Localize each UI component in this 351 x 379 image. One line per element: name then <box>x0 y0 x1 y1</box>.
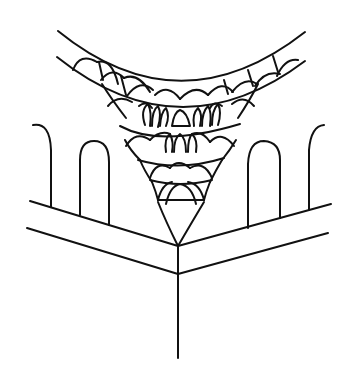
left-arch <box>80 141 109 225</box>
cornice-lines <box>27 201 331 358</box>
left-partial-arch <box>33 125 51 207</box>
muqarnas-pendant <box>158 202 204 246</box>
muqarnas-tier-4 <box>138 158 224 182</box>
muqarnas-drawing <box>0 0 351 379</box>
vault-arcs <box>57 31 305 107</box>
drawing-canvas <box>0 0 351 379</box>
lower-ledge-left <box>27 228 178 274</box>
right-arch <box>248 141 280 228</box>
inner-arc <box>57 57 305 107</box>
right-partial-arch <box>309 125 324 210</box>
wall-arches <box>33 125 324 228</box>
muqarnas-tier-3 <box>120 124 240 160</box>
upper-ledge-left <box>30 201 178 246</box>
muqarnas-tier-5 <box>150 180 212 204</box>
